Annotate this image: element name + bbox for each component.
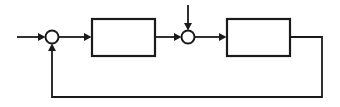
summing-junction-2 — [182, 31, 195, 44]
arrowhead-down-icon — [184, 23, 192, 31]
block-2 — [227, 19, 290, 56]
block-diagram-canvas — [0, 0, 340, 107]
block-diagram-svg — [0, 0, 340, 107]
summing-junction-1 — [46, 31, 59, 44]
arrowhead-right-icon — [174, 33, 182, 41]
arrowhead-right-icon — [219, 33, 227, 41]
arrowhead-right-icon — [84, 33, 92, 41]
block-1 — [92, 19, 155, 56]
arrowhead-up-icon — [48, 44, 56, 52]
arrowhead-right-icon — [38, 33, 46, 41]
